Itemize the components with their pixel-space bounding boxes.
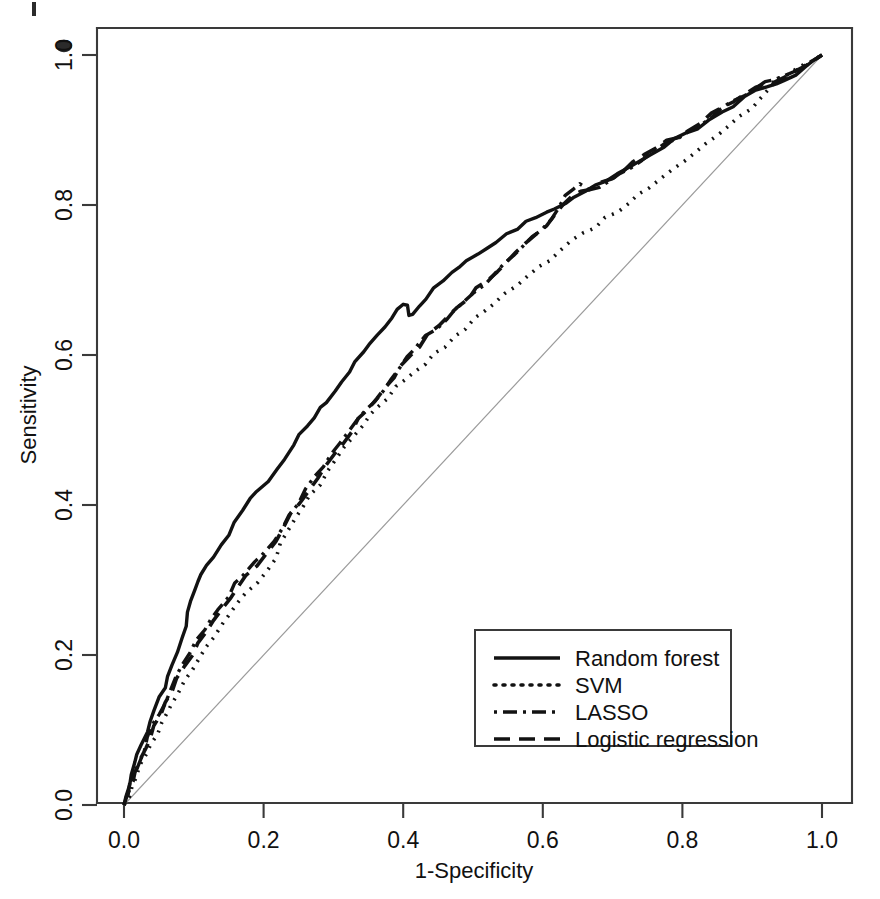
legend-label-lasso: LASSO bbox=[575, 700, 648, 725]
y-tick-label: 0.4 bbox=[51, 489, 77, 521]
x-axis-title: 1-Specificity bbox=[415, 858, 534, 883]
x-tick-label: 0.2 bbox=[248, 827, 280, 853]
x-tick-label: 0.4 bbox=[387, 827, 419, 853]
y-tick-label: 0.2 bbox=[51, 639, 77, 671]
x-tick-label: 0.6 bbox=[527, 827, 559, 853]
x-tick-label: 0.8 bbox=[666, 827, 698, 853]
roc-curve-figure: 0.00.20.40.60.81.0 0.00.20.40.60.81.0 1-… bbox=[0, 0, 880, 899]
y-tick-label: 0.8 bbox=[51, 189, 77, 221]
x-tick-label: 0.0 bbox=[108, 827, 140, 853]
page-speck-top-left bbox=[32, 2, 36, 16]
y-tick-label: 0.6 bbox=[51, 339, 77, 371]
y-axis-title: Sensitivity bbox=[16, 365, 41, 464]
legend-label-svm: SVM bbox=[575, 673, 623, 698]
x-tick-label: 1.0 bbox=[806, 827, 838, 853]
y-tick-label: 0.0 bbox=[51, 789, 77, 821]
legend-label-logistic-regression: Logistic regression bbox=[575, 727, 758, 752]
y-tick-label: 1.0 bbox=[51, 39, 77, 71]
legend-label-random-forest: Random forest bbox=[575, 646, 719, 671]
legend: Random forestSVMLASSOLogistic regression bbox=[475, 630, 758, 752]
